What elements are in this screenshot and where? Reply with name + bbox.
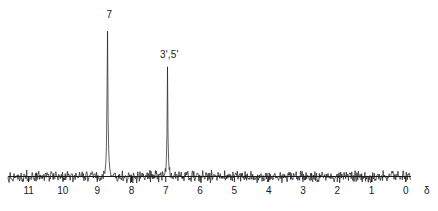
peak-label-1: 7 (106, 9, 112, 20)
axis-tick-label: 5 (232, 185, 238, 196)
axis-tick-label: 1 (369, 185, 375, 196)
spectrum-plot (0, 0, 438, 211)
axis-tick-label: 0 (403, 185, 409, 196)
spectrum-trace (8, 31, 411, 183)
axis-tick-label: 4 (266, 185, 272, 196)
axis-tick-label: 2 (334, 185, 340, 196)
axis-tick-label: 7 (163, 185, 169, 196)
spectrum-trace-group (8, 31, 411, 183)
axis-tick-label: 3 (300, 185, 306, 196)
axis-tick-label: 9 (94, 185, 100, 196)
axis-tick-label: 10 (57, 185, 68, 196)
axis-tick-label: 6 (197, 185, 203, 196)
nmr-spectrum-figure: 11109876543210 73',5' δ (0, 0, 438, 211)
peak-label-2: 3',5' (160, 49, 179, 60)
axis-tick-label: 11 (23, 185, 33, 196)
axis-tick-label: 8 (129, 185, 135, 196)
ppm-axis-symbol: δ (424, 185, 430, 196)
